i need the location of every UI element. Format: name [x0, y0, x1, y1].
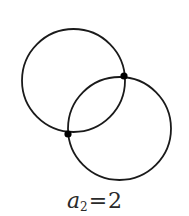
label-subscript: 2	[80, 200, 88, 214]
label-variable: a	[67, 188, 80, 213]
diagram-canvas: a2=2	[0, 0, 189, 216]
two-circles-diagram	[0, 0, 189, 216]
intersection-point-upper-right	[120, 72, 127, 79]
sequence-term-label: a2=2	[0, 188, 189, 214]
intersection-point-lower-left	[64, 130, 71, 137]
label-equals: =	[89, 188, 107, 213]
label-value: 2	[108, 188, 122, 213]
circle-2	[68, 77, 171, 180]
circle-1	[22, 29, 125, 132]
